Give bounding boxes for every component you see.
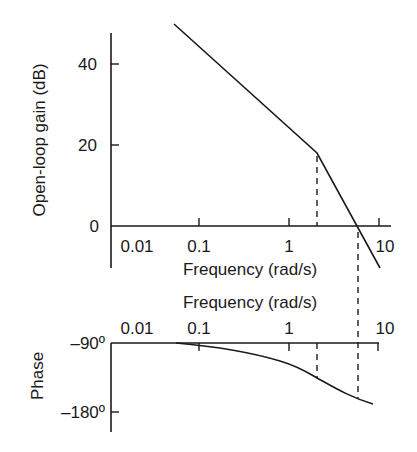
gain-y-tick-label: 20 [78,136,97,155]
gain-y-tick-label: 0 [90,217,99,236]
phase-curve [176,343,373,404]
gain-asymptote-line [174,24,380,268]
gain-x-tick-label: 10 [376,237,395,256]
bode-plot: 40 20 0 0.01 0.1 1 10 Frequency (rad/s) … [0,0,417,452]
phase-x-tick-label: 0.01 [120,319,153,338]
phase-x-tick-label: 10 [376,319,395,338]
gain-y-axis-label: Open-loop gain (dB) [30,63,49,216]
phase-y-axis-label: Phase [28,352,47,400]
gain-x-tick-label: 0.01 [120,237,153,256]
gain-plot: 40 20 0 0.01 0.1 1 10 Frequency (rad/s) … [30,24,394,279]
phase-y-tick-label: –90º [70,334,105,353]
gain-x-tick-label: 0.1 [187,237,211,256]
phase-x-tick-label: 0.1 [187,319,211,338]
phase-y-tick-label: –180º [61,403,105,422]
gain-y-tick-label: 40 [78,55,97,74]
phase-x-axis-label: Frequency (rad/s) [183,293,317,312]
phase-x-tick-label: 1 [284,319,293,338]
phase-plot: Frequency (rad/s) 0.01 0.1 1 10 –90º –18… [28,293,394,432]
gain-x-axis-label: Frequency (rad/s) [183,260,317,279]
gain-x-tick-label: 1 [284,237,293,256]
